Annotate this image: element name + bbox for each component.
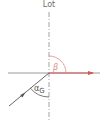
critical-angle-diagram: β αG — [0, 0, 107, 127]
beta-label: β — [52, 63, 58, 72]
incident-ray-arrow-icon — [20, 92, 25, 97]
critical-angle-label: αG — [34, 84, 45, 95]
critical-angle-subscript: G — [39, 87, 44, 95]
